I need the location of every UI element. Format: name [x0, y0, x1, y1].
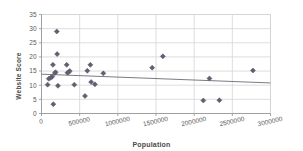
data-point-marker [150, 65, 155, 70]
data-point-marker [72, 82, 77, 87]
x-tick-label: 2000000 [181, 115, 208, 127]
axis-lines [39, 15, 271, 117]
y-axis-tick-labels: 05101520253035 [29, 11, 37, 117]
data-point-marker [101, 71, 106, 76]
data-point-marker [50, 62, 55, 67]
x-tick-label: 1000000 [104, 115, 131, 127]
data-point-marker [51, 102, 56, 107]
y-tick-label: 0 [33, 110, 37, 117]
y-tick-label: 5 [33, 96, 37, 103]
x-tick-label: 500000 [68, 115, 91, 126]
y-tick-label: 10 [29, 82, 37, 89]
gridlines [42, 15, 271, 114]
data-point-marker [85, 68, 90, 73]
scatter-chart: 05101520253035 0500000100000015000002000… [0, 0, 303, 151]
chart-plot-area: 05101520253035 0500000100000015000002000… [0, 0, 303, 151]
x-tick-label: 3000000 [257, 115, 284, 127]
data-point-marker [160, 54, 165, 59]
data-point-marker [250, 68, 255, 73]
data-point-marker [55, 83, 60, 88]
x-tick-label: 2500000 [219, 115, 246, 127]
y-tick-label: 20 [29, 53, 37, 60]
data-point-marker [55, 52, 60, 57]
y-tick-label: 15 [29, 67, 37, 74]
data-point-marker [217, 98, 222, 103]
x-axis-tick-labels: 0500000100000015000002000000250000030000… [38, 115, 283, 127]
data-point-marker [201, 98, 206, 103]
data-point-marker [88, 62, 93, 67]
x-tick-label: 1500000 [142, 115, 169, 127]
x-axis-title: Population [0, 141, 303, 148]
y-tick-label: 25 [29, 39, 37, 46]
y-axis-title: Website Score [15, 36, 25, 116]
data-point-marker [54, 29, 59, 34]
x-tick-label: 0 [38, 117, 43, 125]
y-tick-label: 30 [29, 25, 37, 32]
data-point-marker [83, 93, 88, 98]
data-point-marker [45, 82, 50, 87]
data-point-marker [64, 62, 69, 67]
data-points [45, 29, 255, 107]
y-tick-label: 35 [29, 11, 37, 18]
